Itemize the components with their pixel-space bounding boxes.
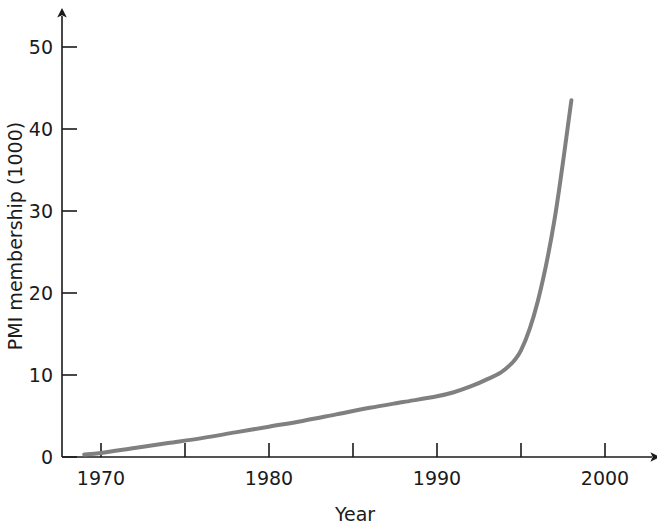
line-chart: 01020304050 1970198019902000 PMI members… (0, 0, 657, 529)
series-group (84, 100, 571, 454)
y-tick-label: 30 (29, 200, 53, 222)
y-tick-label: 50 (29, 36, 53, 58)
x-tick-group: 1970198019902000 (77, 443, 629, 489)
x-axis-title: Year (334, 503, 375, 525)
y-tick-group: 01020304050 (29, 36, 77, 468)
chart-container: 01020304050 1970198019902000 PMI members… (0, 0, 657, 529)
y-tick-label: 40 (29, 118, 53, 140)
x-tick-label: 1980 (245, 467, 293, 489)
x-tick-label: 2000 (581, 467, 629, 489)
y-axis-title: PMI membership (1000) (4, 122, 26, 350)
x-tick-label: 1990 (413, 467, 461, 489)
y-tick-label: 20 (29, 282, 53, 304)
data-series-line (84, 100, 571, 454)
x-tick-label: 1970 (77, 467, 125, 489)
y-tick-label: 10 (29, 364, 53, 386)
y-tick-label: 0 (41, 446, 53, 468)
